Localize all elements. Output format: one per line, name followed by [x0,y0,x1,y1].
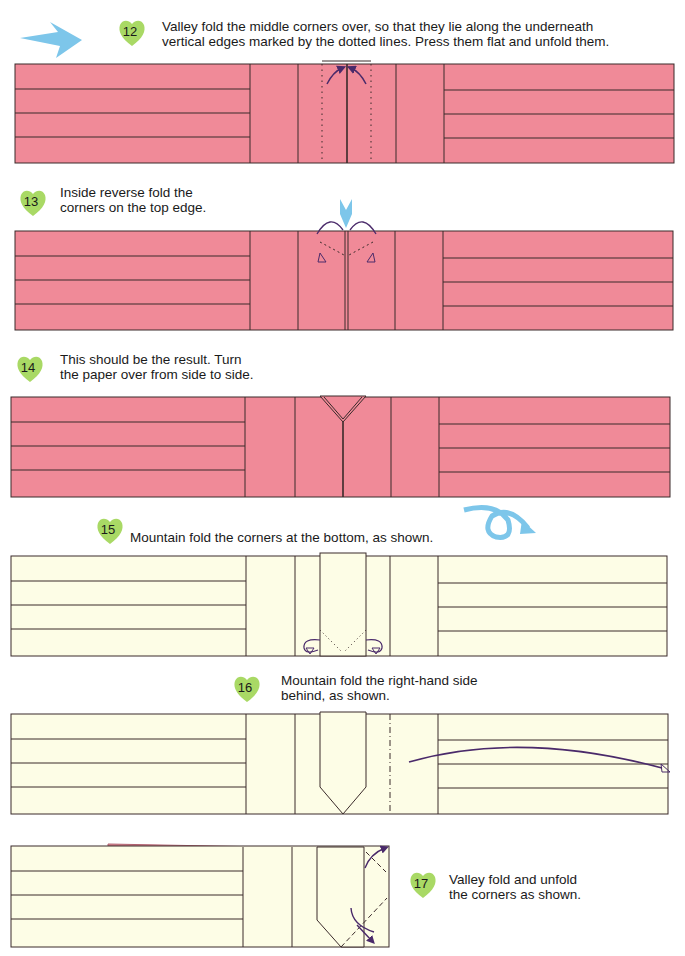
origami-diagrams [0,0,685,956]
step-17-diagram [11,844,389,947]
blue-arrow-right-icon [20,22,82,58]
step-13-diagram [15,222,673,330]
blue-push-arrow-icon [340,199,352,228]
step-15-diagram [11,553,667,656]
step-12-diagram [15,61,674,163]
step-14-diagram [11,396,670,497]
blue-turn-over-arrow-icon [464,508,536,538]
step-16-diagram [11,712,670,814]
